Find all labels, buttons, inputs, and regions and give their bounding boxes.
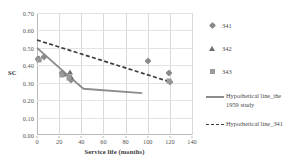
line-swatch (206, 124, 224, 125)
y-axis-title: SC (8, 69, 16, 76)
x-axis-tick-label: 120 (165, 138, 174, 145)
legend-item-341[interactable]: 341 (205, 20, 291, 30)
legend-line-item[interactable]: Hypothetical line_341 (205, 120, 292, 129)
legend-line-item[interactable]: Hypothetical line_the 1959 study (205, 92, 292, 109)
y-axis-tick-label: 0.40 (23, 62, 34, 69)
x-axis-tick-label: 60 (100, 138, 106, 145)
diamond-glyph (208, 21, 215, 28)
x-axis-tick-labels: 020406080100120140 (37, 136, 192, 148)
y-axis-tick-label: 0.30 (23, 79, 34, 86)
square-marker-icon (205, 69, 219, 74)
line-swatch (206, 96, 224, 98)
y-axis-tick-label: 0.60 (23, 27, 34, 34)
legend-item-343[interactable]: 343 (205, 66, 291, 76)
x-axis-tick-label: 0 (35, 138, 38, 145)
data-point-343 (166, 78, 171, 83)
dashed-line-icon (205, 120, 226, 129)
triangle-glyph (209, 46, 215, 51)
data-point-343 (37, 58, 42, 63)
y-axis-tick-label: 0.10 (23, 114, 34, 121)
solid-line-icon (205, 92, 226, 101)
y-axis-tick-label: 0.70 (23, 10, 34, 17)
diamond-marker-icon (205, 23, 219, 28)
legend-item-342[interactable]: 342 (205, 43, 291, 53)
x-axis-tick-label: 40 (78, 138, 84, 145)
data-point-343 (67, 76, 72, 81)
data-point-343 (60, 72, 65, 77)
x-axis-tick-label: 100 (143, 138, 152, 145)
trend-line (37, 48, 142, 93)
y-axis-tick-label: 0.00 (23, 132, 34, 139)
legend-label: 342 (219, 45, 232, 52)
legend-label: 341 (219, 22, 232, 29)
legend-line-label: Hypothetical line_341 (226, 120, 283, 129)
x-axis-title: Service life (months) (37, 148, 192, 155)
triangle-marker-icon (205, 46, 219, 51)
x-axis-tick-label: 80 (122, 138, 128, 145)
square-glyph (210, 69, 215, 74)
legend-label: 343 (219, 68, 232, 75)
y-axis-tick-label: 0.20 (23, 97, 34, 104)
plot-area (37, 13, 192, 135)
x-axis-tick-label: 140 (187, 138, 196, 145)
chart-container: 0.000.100.200.300.400.500.600.70 SC 0204… (0, 0, 292, 166)
x-axis-tick-label: 20 (56, 138, 62, 145)
legend-line-label: Hypothetical line_the 1959 study (226, 92, 292, 109)
vertical-gridline (192, 13, 193, 135)
y-axis-tick-label: 0.50 (23, 44, 34, 51)
